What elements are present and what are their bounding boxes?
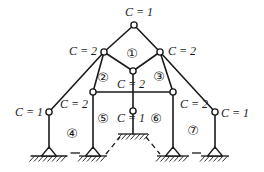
fixed-support-hatch-stroke xyxy=(140,134,145,140)
connection-label-outer-left: C = 1 xyxy=(15,105,43,119)
region-number-6: ⑥ xyxy=(150,111,162,126)
fixed-support-hatch-stroke xyxy=(135,134,140,140)
pin-support-3-hatch-stroke xyxy=(174,156,179,162)
pin-support-1-hatch-stroke xyxy=(43,156,48,162)
hinge-outer-right xyxy=(212,109,218,115)
region-number-1: ① xyxy=(126,46,138,61)
pin-support-3-hatch-stroke xyxy=(161,156,166,162)
connection-label-center-lower: C = 1 xyxy=(117,111,145,125)
pin-support-1-hatch-stroke xyxy=(30,156,35,162)
pin-support-1-hatch-stroke xyxy=(52,156,57,162)
region-number-4: ④ xyxy=(66,126,78,141)
pin-support-2-triangle xyxy=(86,147,101,156)
region-number-7: ⑦ xyxy=(187,123,199,138)
pin-support-3-hatch-stroke xyxy=(165,156,170,162)
region-number-3: ③ xyxy=(153,69,165,84)
connection-label-upper-left: C = 2 xyxy=(69,44,97,58)
pin-support-4-hatch-stroke xyxy=(223,156,228,162)
fixed-support-hatch-stroke xyxy=(131,134,136,140)
region-number-5: ⑤ xyxy=(97,111,109,126)
pin-support-1-hatch-stroke xyxy=(57,156,62,162)
connection-label-upper-right: C = 2 xyxy=(168,44,196,58)
fixed-support-hatch-stroke xyxy=(126,134,131,140)
region-number-2: ② xyxy=(97,70,109,85)
pin-support-1-hatch-stroke xyxy=(48,156,53,162)
hinge-beam-right xyxy=(170,89,176,95)
pin-support-3-hatch-stroke xyxy=(183,156,188,162)
hinge-beam-left xyxy=(90,89,96,95)
fixed-support-hatch-stroke xyxy=(122,134,127,140)
hinge-upper-right xyxy=(157,49,163,55)
pin-support-2-hatch-stroke xyxy=(87,156,92,162)
pin-support-1-hatch-stroke xyxy=(61,156,66,162)
pin-support-3-hatch-stroke xyxy=(156,156,161,162)
figure-canvas: C = 1C = 2C = 2C = 2C = 2C = 2C = 1C = 1… xyxy=(0,0,264,172)
pin-support-2-hatch-stroke xyxy=(78,156,83,162)
pin-support-2-hatch-stroke xyxy=(83,156,88,162)
pin-support-3-hatch-stroke xyxy=(179,156,184,162)
member-apex-to-upper-right xyxy=(134,25,160,52)
pin-support-4-hatch-stroke xyxy=(200,156,205,162)
pin-support-1-hatch-stroke xyxy=(39,156,44,162)
connection-label-beam-left: C = 2 xyxy=(60,97,88,111)
hinge-apex xyxy=(131,22,137,28)
pin-support-3-triangle xyxy=(166,147,181,156)
pin-support-2-hatch-stroke xyxy=(96,156,101,162)
pin-support-4-hatch-stroke xyxy=(209,156,214,162)
connection-label-beam-right: C = 2 xyxy=(180,97,208,111)
pin-support-3-hatch-stroke xyxy=(170,156,175,162)
pin-support-4-triangle xyxy=(208,147,223,156)
hinge-diamond-bottom xyxy=(130,68,136,74)
pin-support-4-hatch-stroke xyxy=(214,156,219,162)
connection-label-outer-right: C = 1 xyxy=(221,106,249,120)
pin-support-4-hatch-stroke xyxy=(205,156,210,162)
ground-continuation-dash-3 xyxy=(146,137,160,154)
structural-diagram-svg: C = 1C = 2C = 2C = 2C = 2C = 2C = 1C = 1… xyxy=(0,0,264,172)
pin-support-1-hatch-stroke xyxy=(34,156,39,162)
pin-support-2-hatch-stroke xyxy=(101,156,106,162)
pin-support-2-hatch-stroke xyxy=(92,156,97,162)
ground-continuation-dash-2 xyxy=(106,137,120,154)
pin-support-1-triangle xyxy=(42,147,57,156)
hinge-upper-left xyxy=(101,49,107,55)
pin-support-4-hatch-stroke xyxy=(218,156,223,162)
hinge-outer-left xyxy=(46,109,52,115)
connection-label-diamond-bottom: C = 2 xyxy=(117,77,145,91)
connection-label-apex: C = 1 xyxy=(125,5,153,19)
